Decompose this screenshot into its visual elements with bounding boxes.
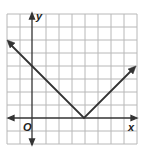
x-axis-label: x [127, 121, 135, 133]
origin-label: O [23, 121, 32, 133]
y-axis-label: y [35, 10, 43, 22]
coordinate-graph: y x O [0, 0, 143, 151]
